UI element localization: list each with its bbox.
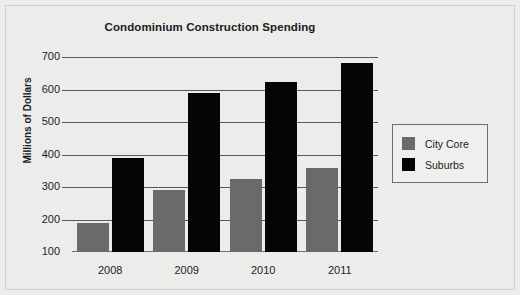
y-tick-label-700: 700 — [20, 50, 60, 62]
chart-page: Condominium Construction Spending Millio… — [0, 0, 520, 295]
bar-city-core-2010 — [230, 179, 262, 252]
y-tick-label-400: 400 — [20, 148, 60, 160]
bar-group-2011: 2011 — [302, 57, 379, 252]
y-tick-500 — [62, 122, 72, 123]
y-tick-label-600: 600 — [20, 83, 60, 95]
y-tick-label-500: 500 — [20, 115, 60, 127]
bar-city-core-2008 — [77, 223, 109, 252]
bar-city-core-2011 — [306, 168, 338, 253]
legend-swatch-icon-suburbs — [402, 158, 415, 171]
bar-group-2009: 2009 — [149, 57, 226, 252]
y-tick-600 — [62, 90, 72, 91]
chart-title: Condominium Construction Spending — [0, 21, 420, 33]
x-axis-label-2009: 2009 — [149, 264, 226, 276]
legend-swatch-icon-city-core — [402, 137, 415, 150]
x-axis-label-2011: 2011 — [302, 264, 379, 276]
legend-label: City Core — [425, 138, 469, 150]
bar-suburbs-2009 — [188, 93, 220, 252]
legend-item-city-core[interactable]: City Core — [402, 137, 479, 150]
bar-group-2008: 2008 — [72, 57, 149, 252]
y-tick-300 — [62, 187, 72, 188]
y-tick-label-300: 300 — [20, 180, 60, 192]
bar-suburbs-2011 — [341, 63, 373, 252]
bar-group-2010: 2010 — [225, 57, 302, 252]
bar-suburbs-2010 — [265, 82, 297, 252]
y-tick-label-100: 100 — [20, 245, 60, 257]
bar-suburbs-2008 — [112, 158, 144, 252]
y-tick-400 — [62, 155, 72, 156]
y-tick-label-200: 200 — [20, 213, 60, 225]
y-tick-700 — [62, 57, 72, 58]
legend-item-suburbs[interactable]: Suburbs — [402, 158, 479, 171]
bar-city-core-2009 — [153, 190, 185, 252]
x-axis-label-2010: 2010 — [225, 264, 302, 276]
y-tick-200 — [62, 220, 72, 221]
chart-legend: City CoreSuburbs — [392, 124, 488, 183]
x-axis-label-2008: 2008 — [72, 264, 149, 276]
plot-area: 100200300400500600700 2008200920102011 — [72, 57, 378, 252]
legend-label: Suburbs — [425, 159, 464, 171]
